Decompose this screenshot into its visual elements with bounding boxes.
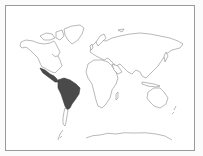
region-australia [147,88,168,108]
world-map [0,0,203,156]
region-patagonia [63,108,68,126]
region-indonesia [142,82,160,87]
region-greenland [64,25,84,44]
region-antarctica [86,133,172,140]
region-south-america[interactable] [58,78,80,110]
region-antarctic-peninsula [58,130,63,140]
region-baffin [56,30,64,40]
region-arctic-islands [40,33,55,40]
region-new-zealand [172,106,176,114]
region-novaya-zemlya [118,29,124,32]
region-madagascar [116,92,118,100]
